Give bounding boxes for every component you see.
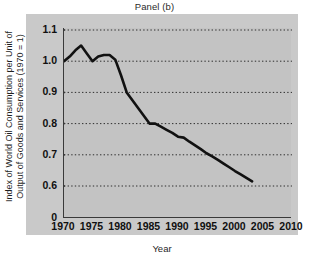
y-tick-label: 0.7: [29, 148, 57, 160]
data-series-line: [64, 46, 252, 182]
y-axis-label-line1: Index of World Oil Consumption per Unit …: [4, 10, 15, 224]
y-axis-tick-marks: [64, 30, 65, 218]
x-tick-label: 2010: [274, 220, 308, 232]
y-tick-label: 1.0: [29, 54, 57, 66]
x-axis-label: Year: [26, 243, 298, 254]
gridlines: [64, 30, 292, 186]
y-tick-label: 0.8: [29, 117, 57, 129]
y-tick-label: 1.1: [29, 23, 57, 35]
y-tick-label: 0.9: [29, 85, 57, 97]
x-axis-tick-labels: 197019751980198519901995200020052010: [0, 220, 309, 236]
plot-area: [63, 28, 291, 218]
y-axis-label: Index of World Oil Consumption per Unit …: [4, 10, 25, 224]
y-axis-label-line2: Output of Goods and Services (1970 = 1): [14, 10, 25, 224]
chart-figure: Panel (b) Index of World Oil Consumption…: [0, 0, 309, 264]
y-tick-label: 0.6: [29, 179, 57, 191]
plot-svg: [64, 28, 292, 218]
